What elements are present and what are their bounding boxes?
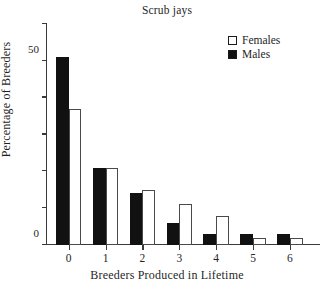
y-axis-tick xyxy=(42,23,47,24)
bar-males-3 xyxy=(167,223,180,245)
bar-males-4 xyxy=(203,234,216,245)
y-axis-tick xyxy=(42,170,47,171)
bar-females-5 xyxy=(253,238,266,245)
bar-females-3 xyxy=(179,204,192,245)
bar-females-2 xyxy=(142,190,155,245)
x-axis-tick-label: 3 xyxy=(176,252,182,264)
x-axis-tick-label: 6 xyxy=(287,252,293,264)
chart-title: Scrub jays xyxy=(0,4,334,16)
x-axis-tick xyxy=(290,245,291,250)
y-axis-tick xyxy=(42,60,47,61)
y-axis-tick xyxy=(42,133,47,134)
x-axis-tick-label: 5 xyxy=(250,252,256,264)
x-axis-tick xyxy=(179,245,180,250)
x-axis-tick xyxy=(106,245,107,250)
bar-females-6 xyxy=(290,238,303,245)
chart-figure: Scrub jays Females Males 0500123456 Bree… xyxy=(0,0,334,293)
y-axis-tick xyxy=(42,244,47,245)
plot-area: 0500123456 xyxy=(46,24,320,245)
bar-females-1 xyxy=(106,168,119,245)
x-axis-tick-label: 0 xyxy=(66,252,72,264)
bar-females-4 xyxy=(216,216,229,245)
x-axis-tick-label: 4 xyxy=(213,252,219,264)
x-axis-title: Breeders Produced in Lifetime xyxy=(0,268,334,283)
x-axis-tick-label: 1 xyxy=(103,252,109,264)
bar-males-1 xyxy=(93,168,106,245)
bar-females-0 xyxy=(69,109,82,245)
y-axis-tick xyxy=(42,207,47,208)
y-axis-tick xyxy=(42,96,47,97)
y-axis-line xyxy=(46,24,47,245)
x-axis-tick xyxy=(216,245,217,250)
y-axis-tick-label: 0 xyxy=(34,227,40,239)
y-axis-tick-label: 50 xyxy=(28,43,39,55)
x-axis-tick xyxy=(142,245,143,250)
x-axis-tick-label: 2 xyxy=(140,252,146,264)
bar-males-6 xyxy=(277,234,290,245)
bar-males-2 xyxy=(130,193,143,245)
y-axis-title: Percentage of Breeders xyxy=(0,0,14,200)
x-axis-tick xyxy=(253,245,254,250)
bar-males-5 xyxy=(240,234,253,245)
bar-males-0 xyxy=(56,57,69,245)
x-axis-tick xyxy=(69,245,70,250)
